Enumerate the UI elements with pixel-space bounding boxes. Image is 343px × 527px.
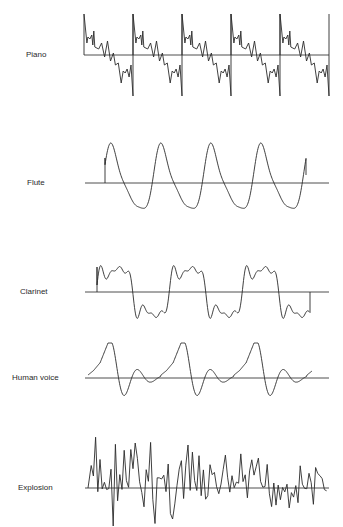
waveform-canvas (0, 0, 343, 527)
human-voice-waveform (88, 343, 312, 396)
flute-waveform (105, 143, 306, 208)
explosion-waveform (88, 437, 327, 526)
